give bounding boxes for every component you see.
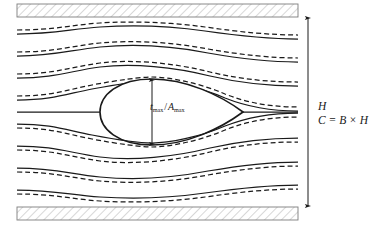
thickness-denominator-subscript: max xyxy=(174,106,184,113)
channel-height-label: H xyxy=(318,100,326,112)
bottom-wall xyxy=(17,207,298,220)
area-relation-label: C = B × H xyxy=(318,114,368,126)
thickness-ratio-label: tmax/Amax xyxy=(150,102,184,113)
thickness-numerator-subscript: max xyxy=(153,106,163,113)
figure-root: H C = B × H tmax/Amax xyxy=(0,0,377,229)
top-wall xyxy=(17,4,298,17)
